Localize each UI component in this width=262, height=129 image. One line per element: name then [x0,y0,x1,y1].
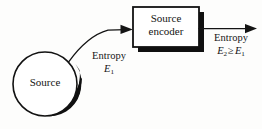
entropy-output-label: Entropy E2≥E1 [214,32,248,58]
encoder-label-line-2: encoder [149,26,184,38]
diagram-graphics [0,0,262,129]
entropy-input-text: Entropy [92,50,126,61]
entropy-input-symbol-subscript: 1 [110,68,114,76]
entropy-output-symbol: E2≥E1 [214,45,248,58]
source-node-label: Source [30,77,61,89]
encoder-label-line-1: Source [151,12,182,24]
entropy-input-label: Entropy E1 [92,50,126,76]
entropy-output-relation-operator: ≥ [227,45,235,56]
diagram-canvas: Source Source encoder Entropy E1 Entropy… [0,0,262,129]
encoder-node-label: Source encoder [149,13,184,37]
entropy-input-symbol: E1 [92,63,126,76]
entropy-output-symbol-subscript-2: 1 [241,50,245,58]
entropy-output-text: Entropy [214,32,248,43]
